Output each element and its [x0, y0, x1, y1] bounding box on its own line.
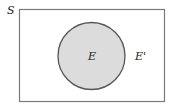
complement-label: E' — [134, 50, 146, 63]
venn-diagram: S E E' — [0, 0, 174, 110]
universe-label: S — [7, 4, 15, 17]
set-label: E — [87, 50, 96, 63]
